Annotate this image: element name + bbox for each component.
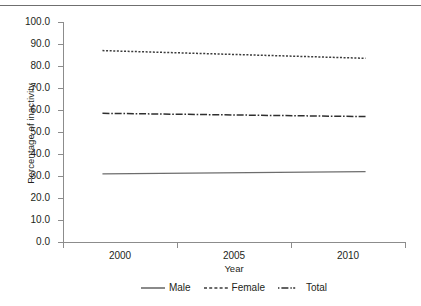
x-axis-title: Year [63, 263, 405, 274]
series-lines [63, 22, 405, 242]
legend-item-female[interactable]: Female [204, 282, 265, 293]
y-axis-tick-label: 90.0 [31, 38, 50, 49]
x-axis-tick-label: 2005 [223, 250, 245, 261]
legend-label: Male [169, 282, 191, 293]
plot-area: 100.090.080.070.060.050.040.030.020.010.… [63, 22, 405, 242]
legend-swatch-solid-icon [141, 284, 165, 292]
legend-swatch-dotted-icon [204, 284, 228, 292]
y-axis-tick-label: 0.0 [36, 236, 50, 247]
series-line-female [102, 51, 365, 59]
y-axis-tick-label: 100.0 [25, 16, 50, 27]
y-axis-tick-label: 30.0 [31, 170, 50, 181]
x-axis-line [63, 242, 405, 243]
x-axis-tick [177, 242, 178, 248]
x-axis-tick [63, 242, 64, 248]
legend-swatch-dash-dot-icon [278, 284, 302, 292]
x-axis-tick-label: 2010 [337, 250, 359, 261]
legend-label: Total [306, 282, 327, 293]
line-chart-figure: Percentage of inactivity 100.090.080.070… [0, 10, 421, 306]
y-axis-tick-label: 40.0 [31, 148, 50, 159]
legend-item-total[interactable]: Total [278, 282, 327, 293]
y-axis-tick-label: 70.0 [31, 82, 50, 93]
x-axis-tick [291, 242, 292, 248]
chart-screenshot: Percentage of inactivity 100.090.080.070… [0, 0, 421, 306]
y-axis-tick-label: 80.0 [31, 60, 50, 71]
chart-legend: MaleFemaleTotal [63, 282, 405, 293]
legend-label: Female [232, 282, 265, 293]
x-axis-tick [405, 242, 406, 248]
page-top-divider [0, 5, 421, 6]
series-line-male [102, 172, 365, 174]
x-axis-tick-label: 2000 [109, 250, 131, 261]
y-axis-tick-label: 60.0 [31, 104, 50, 115]
series-line-total [102, 113, 365, 116]
y-axis-tick-label: 10.0 [31, 214, 50, 225]
legend-item-male[interactable]: Male [141, 282, 191, 293]
y-axis-tick-label: 50.0 [31, 126, 50, 137]
y-axis-tick-label: 20.0 [31, 192, 50, 203]
